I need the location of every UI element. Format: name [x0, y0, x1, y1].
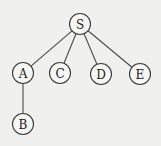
edge-s-d	[84, 34, 97, 65]
edge-s-a	[31, 31, 72, 66]
node-label: A	[18, 67, 28, 81]
node-d: D	[91, 64, 112, 85]
edges	[23, 31, 132, 114]
tree-diagram: SACDEB	[0, 0, 161, 146]
node-label: E	[136, 68, 145, 82]
edge-s-c	[64, 34, 76, 64]
node-s: S	[70, 14, 91, 35]
node-label: C	[55, 67, 64, 81]
node-label: B	[19, 118, 28, 132]
nodes: SACDEB	[13, 14, 151, 135]
node-label: D	[96, 68, 106, 82]
node-c: C	[50, 63, 71, 84]
node-e: E	[130, 64, 151, 85]
edge-s-e	[88, 31, 132, 68]
node-b: B	[13, 114, 34, 135]
node-a: A	[13, 63, 34, 84]
node-label: S	[76, 18, 84, 32]
